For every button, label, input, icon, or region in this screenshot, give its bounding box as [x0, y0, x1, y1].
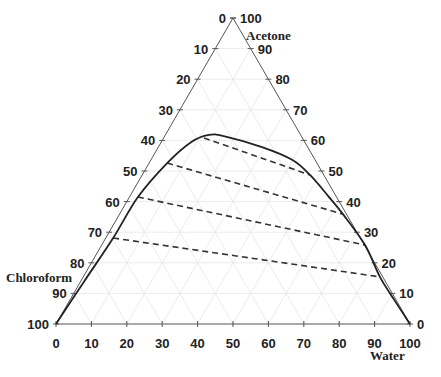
chloroform-tick-label: 0	[219, 11, 226, 26]
tick-labels: 0001010102020203030304040405050506060607…	[27, 11, 424, 351]
grid-line-water	[91, 49, 250, 324]
acetone-tick-label: 80	[275, 72, 289, 87]
chloroform-tick-label: 70	[88, 225, 102, 240]
water-tick-label: 40	[190, 336, 204, 351]
tie-lines	[113, 138, 380, 277]
grid-line-chloroform	[109, 232, 162, 324]
water-tick-label: 70	[297, 336, 311, 351]
axis-title-water: Water	[370, 348, 405, 363]
grid-line-chloroform	[180, 110, 304, 324]
chloroform-tick-label: 100	[27, 317, 49, 332]
acetone-tick-label: 40	[346, 195, 360, 210]
acetone-tick-label: 70	[293, 103, 307, 118]
binodal-curve	[56, 134, 410, 324]
water-tick-label: 30	[155, 336, 169, 351]
grid-line-water	[162, 110, 286, 324]
axis-title-chloroform: Chloroform	[6, 270, 72, 285]
grid-line-chloroform	[74, 293, 92, 324]
water-tick-label: 50	[226, 336, 240, 351]
acetone-tick-label: 60	[311, 133, 325, 148]
grid-line-chloroform	[145, 171, 234, 324]
chloroform-tick-label: 30	[158, 103, 172, 118]
chloroform-tick-label: 10	[194, 42, 208, 57]
acetone-tick-label: 20	[382, 256, 396, 271]
binodal-curve-path	[56, 134, 410, 324]
axis-title-acetone: Acetone	[246, 28, 291, 43]
water-tick-label: 10	[84, 336, 98, 351]
acetone-tick-label: 0	[417, 317, 424, 332]
tie-line	[113, 238, 380, 277]
water-tick-label: 80	[332, 336, 346, 351]
grid-line-water	[304, 232, 357, 324]
chloroform-tick-label: 80	[70, 256, 84, 271]
chloroform-tick-label: 90	[52, 286, 66, 301]
acetone-tick-label: 100	[240, 11, 262, 26]
grid-line-water	[233, 171, 322, 324]
chloroform-tick-label: 20	[176, 72, 190, 87]
chloroform-tick-label: 50	[123, 164, 137, 179]
water-tick-label: 60	[261, 336, 275, 351]
water-tick-label: 20	[120, 336, 134, 351]
acetone-tick-label: 10	[399, 286, 413, 301]
grid-line-water	[375, 293, 393, 324]
axis-ticks	[53, 18, 413, 327]
water-tick-label: 0	[52, 336, 59, 351]
tie-line	[138, 197, 365, 245]
acetone-tick-label: 50	[329, 164, 343, 179]
acetone-tick-label: 90	[258, 42, 272, 57]
chloroform-tick-label: 60	[105, 195, 119, 210]
acetone-tick-label: 30	[364, 225, 378, 240]
grid-line-chloroform	[215, 49, 374, 324]
grid-lines	[74, 49, 393, 324]
chloroform-tick-label: 40	[141, 133, 155, 148]
ternary-phase-diagram: 0001010102020203030304040405050506060607…	[0, 0, 441, 377]
